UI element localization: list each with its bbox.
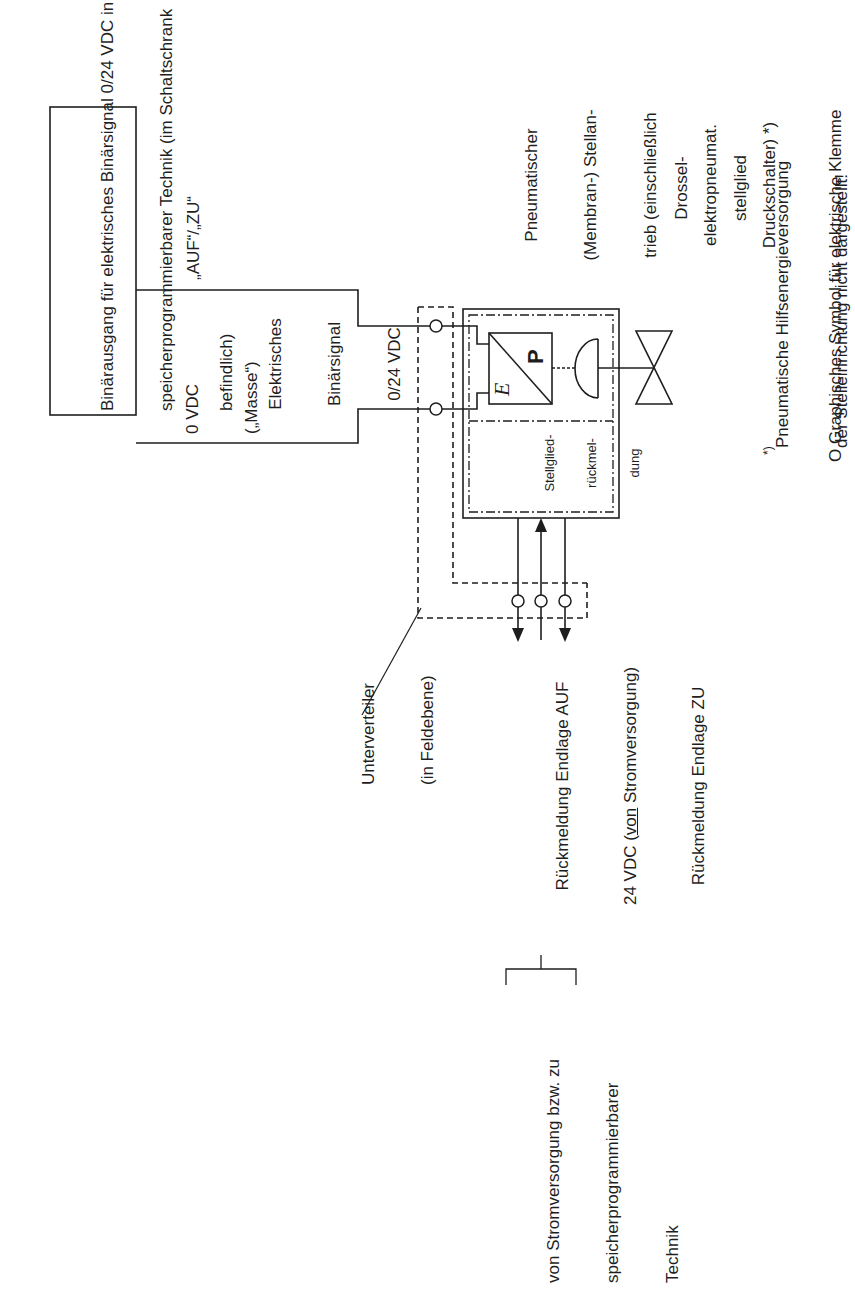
ep-output-symbol: P xyxy=(523,349,548,364)
terminal-note-text: O Graphisches Symbol für elektrische Kle… xyxy=(826,110,846,462)
feedback-24vdc-suffix: Stromversorgung) xyxy=(621,667,640,808)
sub-distributor-label: Unterverteiler (in Feldebene) xyxy=(319,675,458,785)
diaphragm-icon xyxy=(575,339,598,398)
sub-distributor-line: Unterverteiler xyxy=(359,675,379,785)
arrow-up-icon xyxy=(535,518,547,532)
feedback-block-line: rückmel- xyxy=(585,423,599,503)
bracket-label-line: von Stromversorgung bzw. zu xyxy=(544,1059,564,1283)
feedback-auf-text: Rückmeldung Endlage AUF xyxy=(552,655,575,917)
bracket-label-line: Technik xyxy=(663,1059,683,1283)
auf-zu-label: „AUF“/„ZU“ xyxy=(144,196,224,280)
feedback-24vdc-prefix: 24 VDC ( xyxy=(621,835,640,905)
bracket-label: von Stromversorgung bzw. zu speicherprog… xyxy=(504,1059,703,1283)
ep-input-symbol: E xyxy=(489,382,514,397)
binary-signal-line: 0/24 VDC xyxy=(385,307,405,421)
terminal-icon xyxy=(430,320,442,332)
actuator-label-line: (Membran-) Stellan- xyxy=(581,85,601,285)
actuator-label-line: Pneumatischer xyxy=(522,85,542,285)
feedback-24vdc-von: von xyxy=(621,808,640,835)
valve-label-line: Drossel- xyxy=(672,138,692,238)
terminal-icon xyxy=(535,595,547,607)
bracket-icon xyxy=(506,955,576,985)
binary-signal-label: Elektrisches Binärsignal 0/24 VDC xyxy=(226,307,425,421)
arrow-down-icon xyxy=(559,628,571,642)
wire-terminal-to-ep-lower xyxy=(442,393,489,409)
terminal-icon xyxy=(559,595,571,607)
wire-terminal-to-ep-upper xyxy=(442,326,489,344)
terminal-icon xyxy=(512,595,524,607)
binary-signal-line: Binärsignal xyxy=(325,307,345,421)
valve-label: Drossel- stellglied xyxy=(632,138,771,238)
arrow-down-icon xyxy=(512,628,524,642)
feedback-zu-text: Rückmeldung Endlage ZU xyxy=(688,655,711,917)
feedback-24vdc-text: 24 VDC (von Stromversorgung) xyxy=(620,655,643,917)
sub-distributor-line: (in Feldebene) xyxy=(418,675,438,785)
feedback-block-line: Stellglied- xyxy=(543,423,557,503)
plc-box-line: Binärausgang für elektrisches Binärsigna… xyxy=(98,111,118,411)
valve-label-line: stellglied xyxy=(731,138,751,238)
terminal-icon xyxy=(430,403,442,415)
bracket-label-line: speicherprogrammierbarer xyxy=(603,1059,623,1283)
auf-zu-text: „AUF“/„ZU“ xyxy=(184,196,204,280)
footnote-terminal: O Graphisches Symbol für elektrische Kle… xyxy=(786,110,855,462)
feedback-lines-label: Rückmeldung Endlage AUF 24 VDC (von Stro… xyxy=(507,655,733,917)
zero-vdc-text: 0 VDC xyxy=(183,361,203,434)
feedback-block-label: Stellglied- rückmel- dung xyxy=(514,423,657,503)
binary-signal-line: Elektrisches xyxy=(266,307,286,421)
feedback-block-line: dung xyxy=(628,423,642,503)
